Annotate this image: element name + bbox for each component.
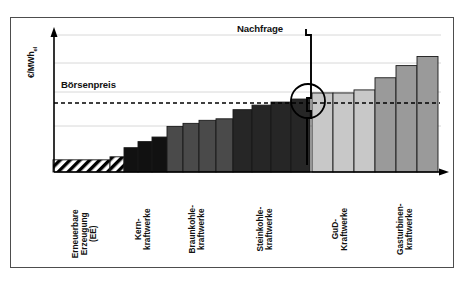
bar-1-1 <box>138 142 152 172</box>
plot-area: €/MWhel Börsenpreis Nachfrage Erneuerbar… <box>0 0 466 281</box>
bar-0-0 <box>53 160 110 172</box>
bar-5-1 <box>396 66 417 172</box>
bar-5-0 <box>375 78 396 172</box>
y-axis-label: €/MWhel <box>26 47 38 78</box>
category-label-5: Gasturbinen- kraftwerke <box>396 187 414 271</box>
bar-3-0 <box>233 110 252 172</box>
bar-4-1 <box>333 93 354 172</box>
bar-2-1 <box>183 123 199 172</box>
y-axis-arrow <box>51 27 58 37</box>
bar-3-2 <box>271 102 291 172</box>
bar-5-2 <box>417 56 438 172</box>
bar-4-0 <box>312 93 333 172</box>
bars-layer <box>53 56 438 172</box>
category-label-1: Kern- kraftwerke <box>134 187 152 271</box>
category-label-0: Erneuerbare Erzeugung (EE) <box>71 192 99 276</box>
bar-3-1 <box>252 105 271 172</box>
category-label-4: GuD- Kraftwerke <box>331 187 349 271</box>
bar-2-2 <box>199 120 216 172</box>
bar-2-0 <box>167 126 183 172</box>
demand-label: Nachfrage <box>237 23 283 34</box>
x-axis-arrow <box>439 169 449 176</box>
merit-order-chart-figure: €/MWhel Börsenpreis Nachfrage Erneuerbar… <box>0 0 466 281</box>
bar-1-0 <box>124 148 138 172</box>
category-label-3: Steinkohle- kraftwerke <box>256 187 274 271</box>
bar-2-3 <box>216 119 233 172</box>
bar-4-2 <box>354 90 375 172</box>
spot-price-label: Börsenpreis <box>61 79 116 90</box>
category-label-2: Braunkohle- kraftwerke <box>188 187 206 271</box>
bar-1-2 <box>152 137 167 172</box>
bar-0-1 <box>110 157 124 172</box>
